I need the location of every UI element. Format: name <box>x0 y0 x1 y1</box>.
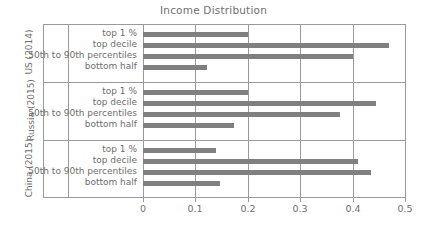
income-distribution-chart: Income Distribution US (2014)Russia (201… <box>0 0 427 236</box>
bar <box>143 54 353 59</box>
bar <box>143 101 376 106</box>
row-label: top 1 % <box>10 29 141 38</box>
row-label: top decile <box>10 40 141 49</box>
row-label: top decile <box>10 156 141 165</box>
row-label: bottom half <box>10 62 141 71</box>
group-separator <box>43 140 406 141</box>
row-label: top 1 % <box>10 145 141 154</box>
tick-mark <box>405 198 406 202</box>
bar <box>143 170 371 175</box>
tick-mark <box>195 198 196 202</box>
tick-mark <box>300 198 301 202</box>
bar <box>143 65 207 70</box>
tick-mark <box>143 198 144 202</box>
row-label: 50th to 90th percentiles <box>10 109 141 118</box>
row-label: 50th to 90th percentiles <box>10 167 141 176</box>
x-axis-tick-label: 0 <box>123 203 163 214</box>
tick-mark <box>353 198 354 202</box>
row-label: 50th to 90th percentiles <box>10 51 141 60</box>
bar <box>143 148 216 153</box>
row-label: top decile <box>10 98 141 107</box>
x-axis-tick-label: 0.3 <box>280 203 320 214</box>
bar <box>143 123 234 128</box>
x-axis-tick-label: 0.1 <box>175 203 215 214</box>
row-label: top 1 % <box>10 87 141 96</box>
bar <box>143 181 220 186</box>
plot-right-edge <box>405 24 406 198</box>
group-separator <box>43 82 406 83</box>
bar <box>143 32 248 37</box>
tick-mark <box>248 198 249 202</box>
bar <box>143 159 358 164</box>
chart-title: Income Distribution <box>0 4 427 16</box>
bar <box>143 43 389 48</box>
row-label: bottom half <box>10 120 141 129</box>
x-axis-tick-label: 0.2 <box>228 203 268 214</box>
x-axis-tick-label: 0.5 <box>385 203 425 214</box>
bar <box>143 112 340 117</box>
x-axis-tick-label: 0.4 <box>333 203 373 214</box>
row-label: bottom half <box>10 178 141 187</box>
bar <box>143 90 248 95</box>
